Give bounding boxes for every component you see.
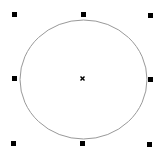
resize-handle-bottom-right[interactable] [147,142,152,147]
resize-handle-top-center[interactable] [81,12,86,17]
resize-handle-middle-right[interactable] [148,77,153,82]
resize-handle-top-left[interactable] [12,12,17,17]
canvas-svg [0,0,164,161]
resize-handle-middle-left[interactable] [12,76,17,81]
resize-handle-bottom-center[interactable] [80,141,85,146]
center-cross-icon[interactable] [81,77,85,81]
drawing-canvas[interactable] [0,0,164,161]
resize-handle-bottom-left[interactable] [11,141,16,146]
resize-handle-top-right[interactable] [148,13,153,18]
